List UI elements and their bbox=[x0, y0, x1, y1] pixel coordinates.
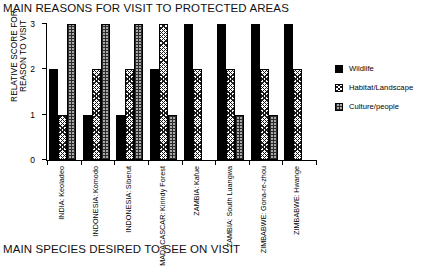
bar-group bbox=[47, 24, 81, 160]
x-axis-label: INDONESIA:Siberut bbox=[125, 166, 133, 233]
bar-group bbox=[148, 24, 182, 160]
bar bbox=[116, 115, 125, 160]
y-axis-tick-label: 1 bbox=[30, 110, 35, 119]
x-axis-label-country: ZIMBABWE: bbox=[260, 212, 268, 253]
x-axis-label-cell: ZAMBIA:Kafue bbox=[181, 166, 215, 228]
bar bbox=[269, 115, 278, 160]
bar bbox=[58, 115, 67, 160]
bar-group bbox=[249, 24, 283, 160]
x-axis-label-cell: ZIMBABWE:Gona-re-zhou bbox=[248, 166, 282, 228]
legend-label: Wildlife bbox=[349, 64, 374, 73]
y-axis-tick-label: 3 bbox=[30, 20, 35, 29]
bar bbox=[193, 69, 202, 160]
bar bbox=[217, 24, 226, 160]
bar bbox=[184, 24, 193, 160]
bar-group bbox=[215, 24, 249, 160]
bar-group bbox=[282, 24, 316, 160]
legend-item[interactable]: Habitat/Landscape bbox=[335, 79, 423, 96]
bar bbox=[159, 24, 168, 160]
legend-item[interactable]: Culture/people bbox=[335, 98, 423, 115]
x-axis-label-cell: ZAMBIA:South Luangwa bbox=[214, 166, 248, 228]
legend-label: Culture/people bbox=[349, 102, 399, 111]
bar-group bbox=[114, 24, 148, 160]
x-axis-label-cell: MADACASCAR:Kirindy Forest bbox=[147, 166, 181, 228]
x-axis-label-cell: INDIA:Keoladeo bbox=[46, 166, 80, 228]
y-axis-label: RELATIVE SCORE FOR REASON TO VISIT bbox=[0, 0, 50, 116]
x-axis-label: ZIMBABWE:Hwange bbox=[293, 166, 301, 235]
x-axis-tick bbox=[114, 160, 115, 165]
x-axis-label-site: Komodo bbox=[92, 166, 100, 193]
x-axis-label-country: ZAMBIA: bbox=[193, 187, 201, 216]
x-axis-label: INDIA:Keoladeo bbox=[58, 166, 66, 220]
legend-item[interactable]: Wildlife bbox=[335, 60, 423, 77]
bar bbox=[168, 115, 177, 160]
x-axis-label-cell: INDONESIA:Siberut bbox=[113, 166, 147, 228]
legend-label: Habitat/Landscape bbox=[349, 83, 413, 92]
x-axis-label-site: Siberut bbox=[125, 166, 133, 189]
chart-legend: WildlifeHabitat/LandscapeCulture/people bbox=[335, 60, 423, 117]
bar bbox=[49, 69, 58, 160]
x-axis-label: ZIMBABWE:Gona-re-zhou bbox=[260, 166, 268, 253]
x-axis-label-site: Kafue bbox=[193, 166, 201, 185]
bar bbox=[101, 24, 110, 160]
x-axis-label-country: INDIA: bbox=[58, 198, 66, 219]
bar bbox=[251, 24, 260, 160]
x-axis-label-site: Gona-re-zhou bbox=[260, 166, 268, 211]
x-axis-label: ZAMBIA:Kafue bbox=[193, 166, 201, 216]
bar bbox=[260, 69, 269, 160]
bar bbox=[134, 24, 143, 160]
x-axis-label-country: INDONESIA: bbox=[125, 191, 133, 233]
x-axis-labels: INDIA:KeoladeoINDONESIA:KomodoINDONESIA:… bbox=[46, 166, 315, 228]
x-axis-label: INDONESIA:Komodo bbox=[92, 166, 100, 237]
legend-swatch-icon bbox=[335, 103, 343, 111]
x-axis-label: ZAMBIA:South Luangwa bbox=[226, 166, 234, 247]
bar-group bbox=[81, 24, 115, 160]
x-axis-label-country: ZIMBABWE: bbox=[293, 194, 301, 235]
x-axis-label-country: INDONESIA: bbox=[92, 195, 100, 237]
legend-swatch-icon bbox=[335, 65, 343, 73]
x-axis-tick bbox=[182, 160, 183, 165]
x-axis-tick bbox=[249, 160, 250, 165]
bar bbox=[125, 69, 134, 160]
x-axis-label-cell: ZIMBABWE:Hwange bbox=[281, 166, 315, 228]
y-axis-tick-label: 0 bbox=[30, 156, 35, 165]
x-axis-label-cell: INDONESIA:Komodo bbox=[80, 166, 114, 228]
y-axis-label-line-2: REASON TO VISIT bbox=[20, 20, 29, 92]
bar-groups bbox=[47, 24, 316, 160]
bar bbox=[235, 115, 244, 160]
bar bbox=[150, 69, 159, 160]
bottom-caption: MAIN SPECIES DESIRED TO SEE ON VISIT bbox=[3, 243, 240, 255]
bar bbox=[293, 69, 302, 160]
x-axis-label-site: Hwange bbox=[293, 166, 301, 193]
x-axis-label-site: Kirindy Forest bbox=[159, 166, 167, 211]
x-axis-tick bbox=[47, 160, 48, 165]
legend-swatch-icon bbox=[335, 84, 343, 92]
x-axis-label-site: South Luangwa bbox=[226, 166, 234, 217]
bar bbox=[284, 24, 293, 160]
x-axis-tick bbox=[215, 160, 216, 165]
x-axis-label-site: Keoladeo bbox=[58, 166, 66, 197]
x-axis-tick bbox=[81, 160, 82, 165]
bar bbox=[226, 69, 235, 160]
plot-area: 0123 bbox=[46, 24, 316, 161]
bar bbox=[67, 24, 76, 160]
x-axis-tick bbox=[148, 160, 149, 165]
bar-group bbox=[182, 24, 216, 160]
x-axis-tick bbox=[316, 160, 317, 165]
y-axis-tick-label: 2 bbox=[30, 65, 35, 74]
bar bbox=[92, 69, 101, 160]
x-axis-tick bbox=[282, 160, 283, 165]
bar bbox=[83, 115, 92, 160]
x-axis-label-country: MADACASCAR: bbox=[159, 213, 167, 266]
